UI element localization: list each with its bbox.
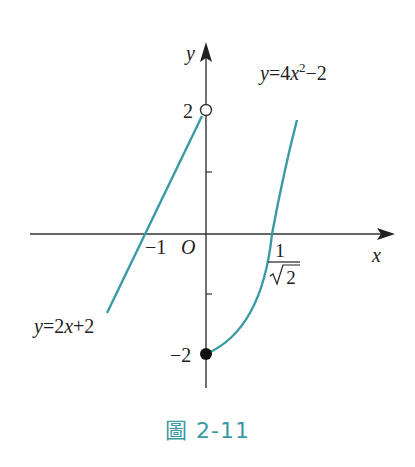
fraction-denominator: 2 (286, 267, 296, 288)
figure-caption: 圖 2-11 (0, 412, 415, 444)
origin-label: O (181, 236, 195, 258)
y-tick-label-neg2: −2 (170, 344, 191, 366)
x-tick-label-neg1: −1 (145, 236, 166, 258)
parabola-label: y=4x2−2 (258, 60, 327, 85)
line-y-2x-plus-2 (107, 116, 202, 313)
fraction-numerator: 1 (275, 240, 285, 261)
open-circle-marker (201, 105, 212, 116)
x-axis-label: x (371, 244, 381, 266)
y-tick-label-2: 2 (183, 100, 193, 122)
y-axis-label: y (184, 42, 195, 65)
figure-2-11: y x O 2 −2 −1 1 2 y=4x2−2 y=2x+2 (0, 0, 415, 467)
parabola-y-4x2-minus-2 (206, 120, 297, 354)
x-tick-label-1-over-sqrt2: 1 2 (268, 240, 300, 288)
filled-circle-marker (200, 348, 212, 360)
line-label: y=2x+2 (32, 315, 94, 338)
